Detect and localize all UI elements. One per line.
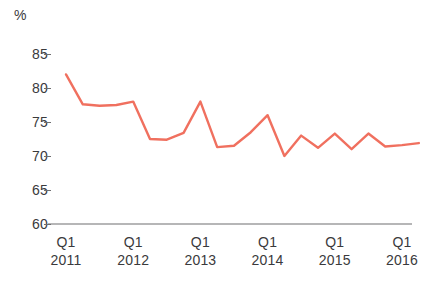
line-chart: % 858075706560 Q12011Q12012Q12013Q12014Q… [0, 0, 422, 281]
plot-area [0, 0, 422, 281]
data-series-line [66, 74, 419, 156]
